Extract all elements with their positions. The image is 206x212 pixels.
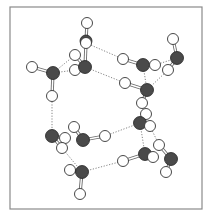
hydrogen-atom [81,38,92,49]
hydrogen-atom [75,189,86,200]
hydrogen-atom [148,152,159,163]
hydrogen-atom [118,54,129,65]
oxygen-atom [79,61,92,74]
molecular-diagram [0,0,206,212]
hydrogen-atom [47,91,58,102]
hydrogen-atom [65,165,76,176]
hydrogen-atom [168,34,179,45]
hydrogen-atom [150,60,161,71]
atom-layer [27,18,184,200]
hydrogen-atom [145,121,156,132]
hydrogen-atom [118,156,129,167]
oxygen-atom [165,153,178,166]
hydrogen-bond [86,43,123,59]
oxygen-atom [141,84,154,97]
hydrogen-atom [27,62,38,73]
hydrogen-atom [163,65,174,76]
oxygen-atom [137,59,150,72]
hydrogen-atom [70,50,81,61]
oxygen-atom [77,134,90,147]
hydrogen-atom [82,18,93,29]
hydrogen-atom [60,133,71,144]
oxygen-atom [171,52,184,65]
hydrogen-atom [154,140,165,151]
hydrogen-atom [69,122,80,133]
hydrogen-atom [137,98,148,109]
hydrogen-atom [100,131,111,142]
hydrogen-atom [57,143,68,154]
covalent-bond-layer [32,23,177,194]
oxygen-atom [47,67,60,80]
oxygen-atom [76,166,89,179]
hydrogen-atom [161,167,172,178]
hydrogen-atom [120,78,131,89]
oxygen-atom [46,130,59,143]
